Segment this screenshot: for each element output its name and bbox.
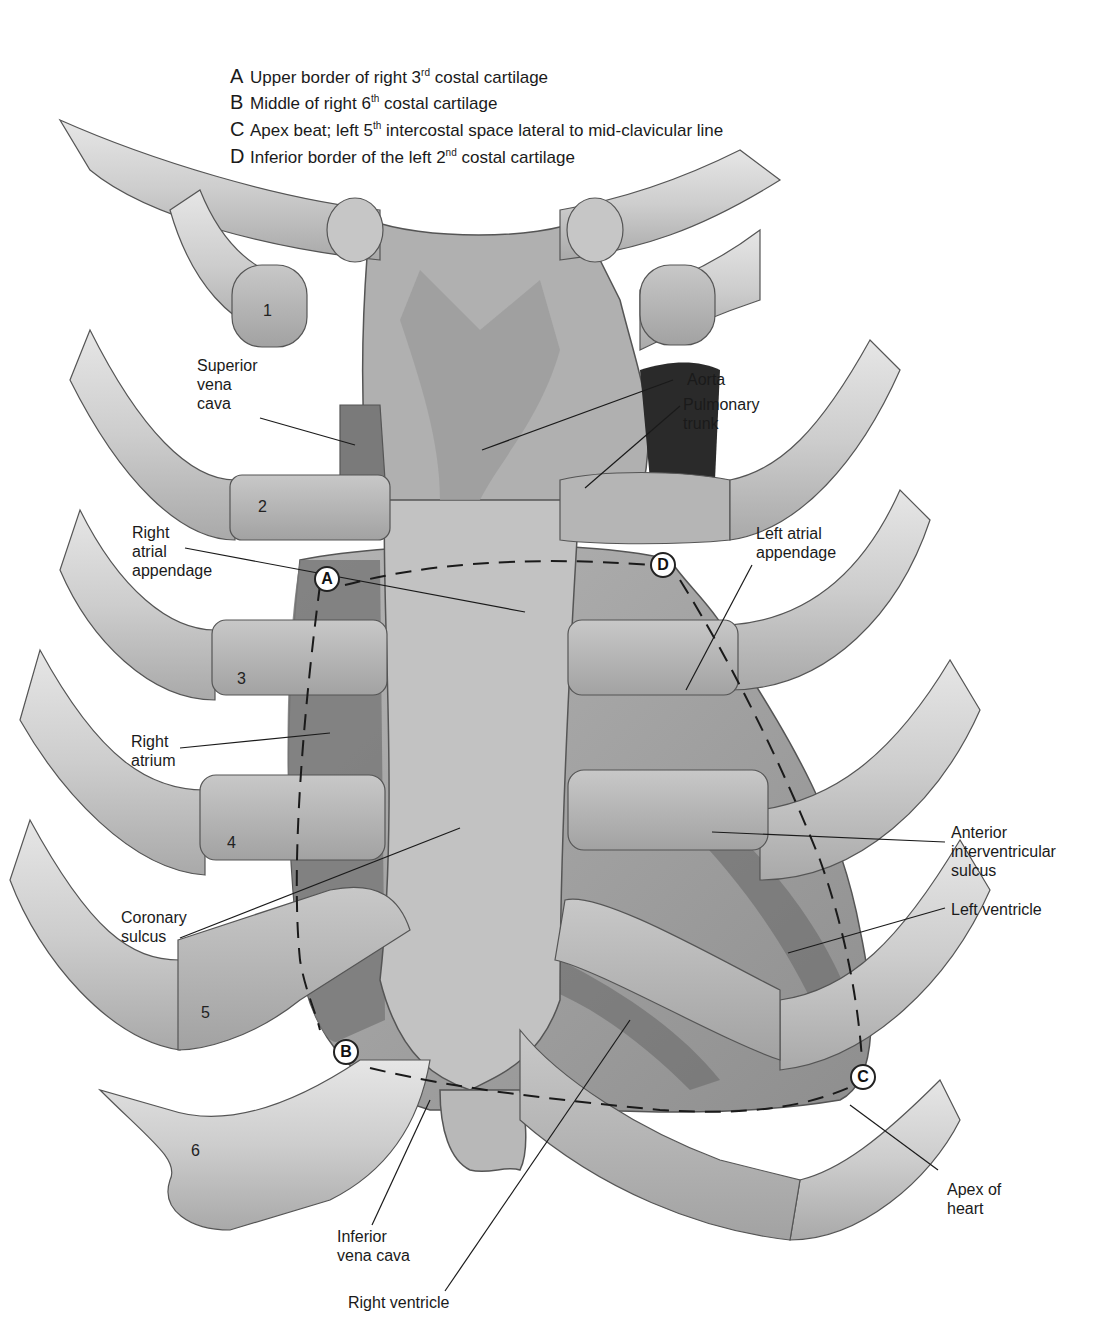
legend-key: A bbox=[230, 65, 250, 87]
legend-item-a: AUpper border of right 3rd costal cartil… bbox=[230, 62, 723, 89]
legend-text: Upper border of right 3rd costal cartila… bbox=[250, 68, 548, 87]
marker-b: B bbox=[333, 1039, 359, 1065]
label-inferior-vena-cava: Inferiorvena cava bbox=[337, 1227, 410, 1265]
label-apex-of-heart: Apex ofheart bbox=[947, 1180, 1001, 1218]
rib-number-3: 3 bbox=[237, 670, 246, 688]
rib-number-5: 5 bbox=[201, 1004, 210, 1022]
label-right-ventricle: Right ventricle bbox=[348, 1293, 449, 1312]
legend-text: Inferior border of the left 2nd costal c… bbox=[250, 148, 575, 167]
legend-text: Middle of right 6th costal cartilage bbox=[250, 94, 497, 113]
legend-key: D bbox=[230, 145, 250, 167]
label-left-ventricle: Left ventricle bbox=[951, 900, 1042, 919]
marker-a: A bbox=[314, 566, 340, 592]
label-pulmonary-trunk: Pulmonarytrunk bbox=[683, 395, 759, 433]
legend-key: C bbox=[230, 118, 250, 140]
legend-item-c: CApex beat; left 5th intercostal space l… bbox=[230, 115, 723, 142]
legend-text: Apex beat; left 5th intercostal space la… bbox=[250, 121, 723, 140]
rib-number-6: 6 bbox=[191, 1142, 200, 1160]
label-superior-vena-cava: Superiorvenacava bbox=[197, 356, 257, 413]
legend-item-d: DInferior border of the left 2nd costal … bbox=[230, 142, 723, 169]
heart-surface-anatomy-figure: AUpper border of right 3rd costal cartil… bbox=[0, 0, 1113, 1326]
label-anterior-interventricular-sulcus: Anteriorinterventricularsulcus bbox=[951, 823, 1056, 880]
rib-number-2: 2 bbox=[258, 498, 267, 516]
legend-item-b: BMiddle of right 6th costal cartilage bbox=[230, 89, 723, 116]
marker-c: C bbox=[850, 1064, 876, 1090]
marker-d: D bbox=[650, 552, 676, 578]
legend: AUpper border of right 3rd costal cartil… bbox=[230, 62, 723, 169]
label-aorta: Aorta bbox=[687, 370, 725, 389]
label-coronary-sulcus: Coronarysulcus bbox=[121, 908, 187, 946]
rib-number-1: 1 bbox=[263, 302, 272, 320]
rib-number-4: 4 bbox=[227, 834, 236, 852]
label-right-atrium: Rightatrium bbox=[131, 732, 175, 770]
legend-key: B bbox=[230, 91, 250, 113]
label-right-atrial-appendage: Rightatrialappendage bbox=[132, 523, 212, 580]
label-left-atrial-appendage: Left atrialappendage bbox=[756, 524, 836, 562]
anatomy-illustration bbox=[0, 0, 1113, 1326]
